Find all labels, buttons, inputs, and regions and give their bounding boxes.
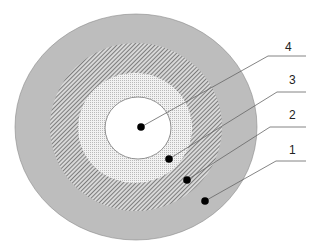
label-4: 4 <box>285 40 292 54</box>
marker-dot-3 <box>165 155 173 163</box>
label-3: 3 <box>289 73 296 87</box>
label-2: 2 <box>289 108 296 122</box>
marker-dot-2 <box>183 176 191 184</box>
label-1: 1 <box>289 143 296 157</box>
marker-dot-1 <box>201 197 209 205</box>
concentric-layer-diagram: 4 3 2 1 <box>0 0 324 250</box>
marker-dot-4 <box>137 123 145 131</box>
